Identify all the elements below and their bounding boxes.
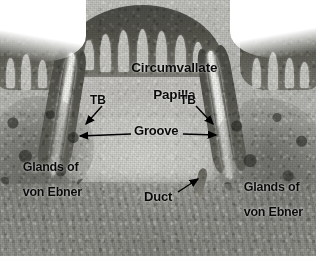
tb-left-leader bbox=[86, 106, 102, 124]
duct-leader bbox=[178, 179, 198, 192]
histology-figure: Circumvallate Papilla TB TB Groove Gland… bbox=[0, 0, 316, 261]
annotation-layer: Circumvallate Papilla TB TB Groove Gland… bbox=[0, 0, 316, 261]
label-glands-right-line2: von Ebner bbox=[244, 205, 303, 219]
groove-leader-right bbox=[183, 134, 216, 135]
label-glands-of-von-ebner-left: Glands of von Ebner bbox=[3, 148, 82, 212]
label-duct: Duct bbox=[144, 190, 172, 203]
label-circumvallate-papilla-line1: Circumvallate bbox=[131, 60, 217, 75]
label-circumvallate-papilla: Circumvallate Papilla bbox=[110, 47, 217, 116]
label-glands-of-von-ebner-right: Glands of von Ebner bbox=[224, 168, 303, 232]
label-glands-right-line1: Glands of bbox=[244, 180, 300, 194]
label-groove: Groove bbox=[134, 124, 178, 137]
label-tb-left: TB bbox=[90, 94, 106, 106]
label-glands-left-line1: Glands of bbox=[23, 160, 79, 174]
label-glands-left-line2: von Ebner bbox=[23, 185, 82, 199]
groove-leader-left bbox=[80, 134, 131, 136]
label-tb-right: TB bbox=[180, 94, 196, 106]
